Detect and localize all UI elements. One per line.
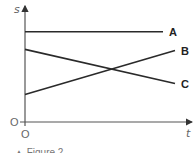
- position-time-chart: s t O O ABC ▲ Figure 2: [0, 0, 196, 153]
- series-label-b: B: [181, 45, 189, 57]
- y-origin-label: O: [10, 116, 19, 128]
- x-axis-label: t: [186, 127, 191, 140]
- series-label-c: C: [181, 78, 189, 90]
- series-line-b: [25, 51, 175, 95]
- series-label-a: A: [169, 26, 177, 38]
- y-axis-label: s: [14, 3, 20, 16]
- series-line-c: [25, 49, 175, 83]
- x-origin-label: O: [21, 128, 30, 140]
- figure-caption: ▲ Figure 2: [14, 147, 64, 153]
- series-group: ABC: [25, 26, 189, 95]
